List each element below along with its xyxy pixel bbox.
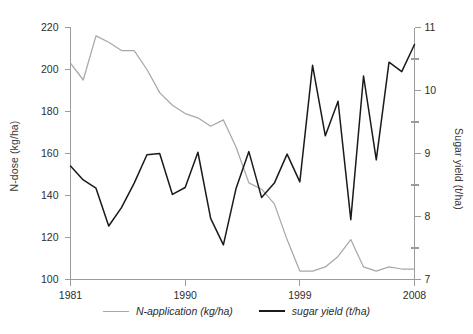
series-line-1 xyxy=(71,36,415,271)
tick-marks xyxy=(65,28,421,286)
x-tick-label: 2008 xyxy=(390,289,440,301)
y-axis-left-title: N-dose (kg/ha) xyxy=(8,96,20,216)
y-left-tick-label: 220 xyxy=(25,21,59,33)
y-left-tick-label: 180 xyxy=(25,105,59,117)
y-right-tick-label: 8 xyxy=(425,210,455,222)
y-left-tick-label: 140 xyxy=(25,189,59,201)
y-right-tick-label: 11 xyxy=(425,21,455,33)
x-tick-label: 1990 xyxy=(160,289,210,301)
y-left-tick-label: 200 xyxy=(25,63,59,75)
y-right-tick-label: 9 xyxy=(425,147,455,159)
legend-item: N-application (kg/ha) xyxy=(103,305,233,317)
y-left-tick-label: 120 xyxy=(25,231,59,243)
chart-plot-area xyxy=(0,0,473,334)
legend-label: N-application (kg/ha) xyxy=(136,305,233,317)
series-line-2 xyxy=(71,45,415,245)
y-left-tick-label: 160 xyxy=(25,147,59,159)
chart-figure: N-dose (kg/ha) Sugar yield (t/ha) 100120… xyxy=(0,0,473,334)
axis-lines xyxy=(71,28,415,280)
x-tick-label: 1981 xyxy=(46,289,96,301)
y-right-tick-label: 7 xyxy=(425,273,455,285)
series-lines xyxy=(71,36,415,271)
legend-label: sugar yield (t/ha) xyxy=(292,305,370,317)
legend-swatch-icon xyxy=(259,310,285,312)
legend-item: sugar yield (t/ha) xyxy=(259,305,370,317)
y-axis-right-title: Sugar yield (t/ha) xyxy=(453,109,465,229)
y-right-tick-label: 10 xyxy=(425,84,455,96)
y-left-tick-label: 100 xyxy=(25,273,59,285)
legend-swatch-icon xyxy=(103,311,129,312)
chart-legend: N-application (kg/ha)sugar yield (t/ha) xyxy=(0,305,473,317)
x-tick-label: 1999 xyxy=(275,289,325,301)
